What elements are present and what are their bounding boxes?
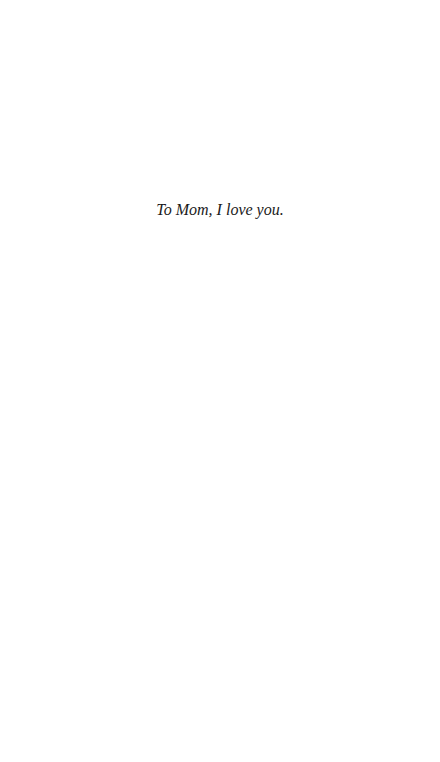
dedication-text: To Mom, I love you. bbox=[0, 200, 440, 220]
book-page: To Mom, I love you. bbox=[0, 0, 440, 762]
